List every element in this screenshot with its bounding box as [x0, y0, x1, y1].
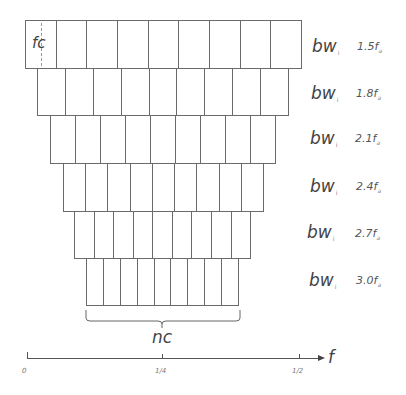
channel-cell: [153, 212, 173, 258]
channel-cell: [95, 212, 115, 258]
channel-cell: [114, 212, 134, 258]
bw-text: bw: [311, 83, 336, 103]
channel-cell: [153, 164, 175, 211]
channel-cell: [177, 69, 205, 115]
channel-cell: [38, 69, 66, 115]
axis-label-f: f: [328, 347, 334, 367]
tick-label-0: 0: [22, 367, 26, 375]
factor-text: 2.1f: [355, 132, 376, 145]
factor-label-3: 2.1fa: [355, 132, 380, 146]
bandwidth-label-3: bwi: [310, 128, 337, 148]
axis-tick-0: [27, 352, 28, 358]
channel-cell: [104, 259, 121, 305]
channel-cell: [173, 212, 193, 258]
tick-label-half: 1/2: [292, 367, 303, 375]
factor-text: 2.7f: [355, 227, 376, 240]
channel-cell: [205, 69, 233, 115]
channel-cell: [122, 69, 150, 115]
channel-cell: [131, 164, 153, 211]
factor-subscript: a: [377, 281, 381, 288]
bandwidth-label-6: bwi: [309, 270, 336, 290]
fc-label: fc: [32, 34, 46, 52]
channel-cell: [179, 21, 210, 68]
channel-cell: [151, 116, 176, 163]
bw-text: bw: [312, 36, 337, 56]
factor-subscript: a: [376, 234, 380, 241]
factor-text: 3.0f: [356, 274, 377, 287]
frequency-axis: [27, 358, 318, 359]
channel-cell: [101, 116, 126, 163]
band-row-5: [74, 211, 251, 259]
channel-cell: [87, 259, 104, 305]
bw-subscript: i: [336, 189, 338, 196]
channel-cell: [75, 212, 95, 258]
channel-cell: [197, 164, 219, 211]
channel-cell: [138, 259, 155, 305]
channel-cell: [86, 164, 108, 211]
band-row-3: [50, 115, 276, 164]
factor-subscript: a: [377, 187, 381, 194]
channel-cell: [242, 164, 264, 211]
channel-cell: [220, 164, 242, 211]
channel-cell: [176, 116, 201, 163]
channel-cell: [150, 69, 178, 115]
axis-tick-quarter: [162, 354, 163, 358]
factor-text: 1.8f: [356, 87, 377, 100]
channel-cell: [175, 164, 197, 211]
channel-cell: [149, 21, 180, 68]
channel-cell: [205, 259, 222, 305]
channel-cell: [108, 164, 130, 211]
channel-cell: [94, 69, 122, 115]
bw-text: bw: [310, 128, 335, 148]
channel-cell: [134, 212, 154, 258]
axis-tick-half: [299, 354, 300, 358]
band-row-4: [63, 163, 264, 212]
channel-cell: [118, 21, 149, 68]
channel-cell: [226, 116, 251, 163]
channel-cell: [87, 21, 118, 68]
nc-label: nc: [152, 327, 172, 347]
channel-cell: fc: [26, 21, 57, 68]
band-row-6: [86, 258, 239, 306]
filterbank-diagram: fc: [0, 0, 406, 395]
channel-cell: [222, 259, 239, 305]
channel-cell: [192, 212, 212, 258]
bw-subscript: i: [338, 49, 340, 56]
factor-subscript: a: [378, 47, 382, 54]
channel-cell: [155, 259, 172, 305]
channel-cell: [64, 164, 86, 211]
bw-subscript: i: [333, 235, 335, 242]
factor-text: 1.5f: [357, 40, 378, 53]
factor-label-6: 3.0fa: [356, 274, 381, 288]
bw-text: bw: [307, 222, 332, 242]
tick-label-quarter: 1/4: [155, 367, 166, 375]
channel-cell: [66, 69, 94, 115]
bandwidth-label-1: bwi: [312, 36, 339, 56]
channel-cell: [232, 212, 252, 258]
factor-subscript: a: [376, 139, 380, 146]
band-row-2: [37, 68, 289, 116]
factor-label-4: 2.4fa: [356, 180, 381, 194]
channel-cell: [76, 116, 101, 163]
channel-cell: [251, 116, 276, 163]
factor-text: 2.4f: [356, 180, 377, 193]
band-row-1: fc: [25, 20, 302, 69]
channel-cell: [188, 259, 205, 305]
bw-subscript: i: [337, 96, 339, 103]
factor-subscript: a: [377, 94, 381, 101]
factor-label-1: 1.5fa: [357, 40, 382, 54]
arrow-right-icon: [318, 355, 325, 361]
channel-cell: [210, 21, 241, 68]
factor-label-2: 1.8fa: [356, 87, 381, 101]
channel-cell: [241, 21, 272, 68]
channel-cell: [271, 21, 302, 68]
channel-cell: [121, 259, 138, 305]
bandwidth-label-2: bwi: [311, 83, 338, 103]
bandwidth-label-4: bwi: [310, 176, 337, 196]
channel-cell: [57, 21, 88, 68]
channel-cell: [201, 116, 226, 163]
bw-text: bw: [310, 176, 335, 196]
channel-cell: [212, 212, 232, 258]
channel-cell: [233, 69, 261, 115]
bw-subscript: i: [336, 141, 338, 148]
